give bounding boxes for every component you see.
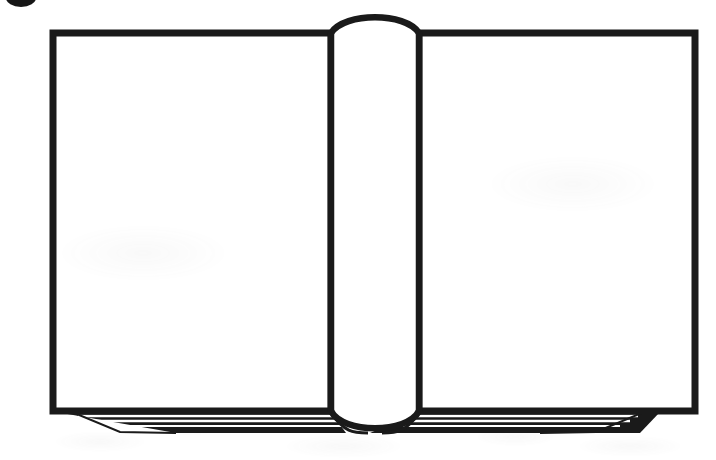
illustration-canvas: Open Book Black and white line drawing o… [0, 0, 716, 460]
page-stack-left [56, 412, 347, 433]
corner-dot-icon [6, 0, 36, 7]
right-page [419, 33, 695, 411]
spine-panel [331, 17, 419, 430]
open-book-illustration [0, 0, 716, 460]
left-page [53, 33, 331, 411]
